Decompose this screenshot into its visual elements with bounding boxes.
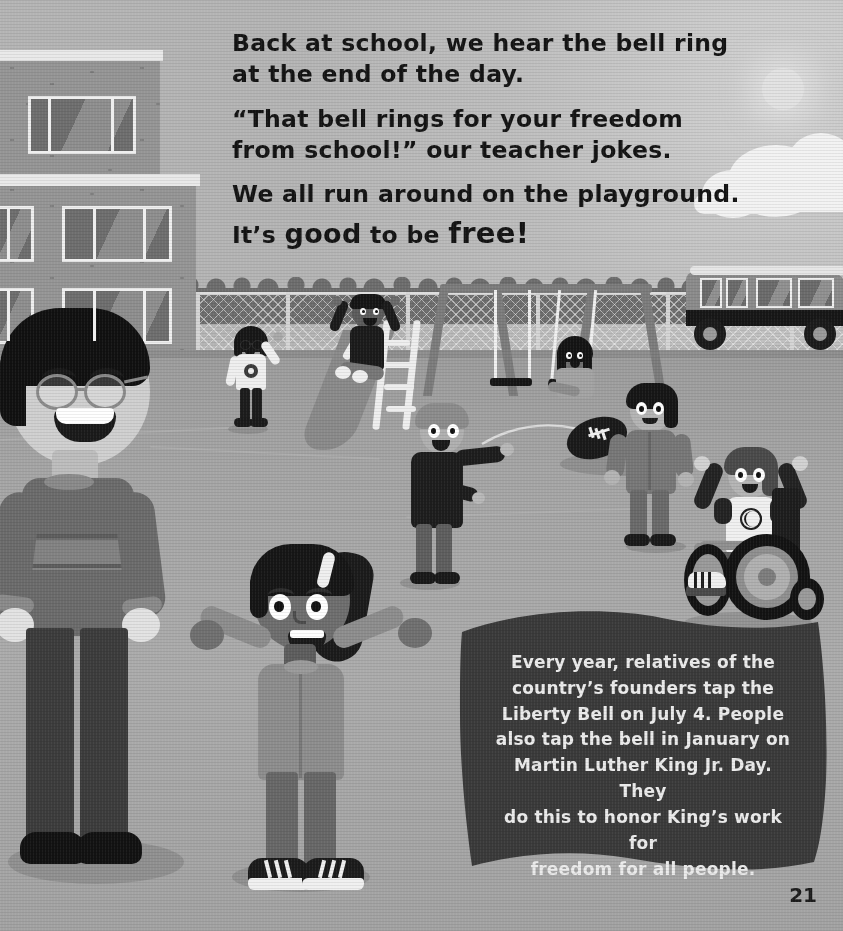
story-paragraph-1: Back at school, we hear the bell ring at… xyxy=(232,28,752,91)
closing-emphasis-free: free! xyxy=(448,216,529,250)
fact-line: do this to honor King’s work for xyxy=(488,805,798,857)
book-page: Back at school, we hear the bell ring at… xyxy=(0,0,843,931)
closing-emphasis-good: good xyxy=(285,218,362,249)
story-paragraph-3: We all run around on the playground. xyxy=(232,179,752,210)
ladder-step xyxy=(382,362,412,368)
fence-post xyxy=(196,292,200,354)
fact-line: country’s founders tap the xyxy=(488,676,798,702)
story-paragraph-2: “That bell rings for your freedom from s… xyxy=(232,104,752,167)
ladder-step xyxy=(386,406,416,412)
swing-seat xyxy=(490,378,532,386)
fence-post xyxy=(666,292,670,354)
window xyxy=(62,206,172,262)
story-text: Back at school, we hear the bell ring at… xyxy=(232,28,752,253)
fact-flag-text: Every year, relatives of the country’s f… xyxy=(488,650,798,882)
bus-wheel xyxy=(694,318,726,350)
ladder-step xyxy=(380,340,410,346)
fence-post xyxy=(286,292,290,354)
fact-line: Liberty Bell on July 4. People xyxy=(488,702,798,728)
page-number: 21 xyxy=(789,883,817,907)
fact-line: Martin Luther King Jr. Day. They xyxy=(488,753,798,805)
fence-post xyxy=(536,292,540,354)
fact-line: Every year, relatives of the xyxy=(488,650,798,676)
closing-middle: to be xyxy=(362,221,449,249)
fact-flag: Every year, relatives of the country’s f… xyxy=(452,604,843,889)
closing-lead: It’s xyxy=(232,221,285,249)
glasses-icon xyxy=(36,374,78,410)
window xyxy=(0,206,34,262)
sun-icon xyxy=(762,68,804,110)
fact-line: freedom for all people. xyxy=(488,857,798,883)
fact-line: also tap the bell in January on xyxy=(488,727,798,753)
bus-wheel xyxy=(804,318,836,350)
story-closing-line: It’s good to be free! xyxy=(232,214,752,253)
window xyxy=(28,96,136,154)
ladder-step xyxy=(384,384,414,390)
